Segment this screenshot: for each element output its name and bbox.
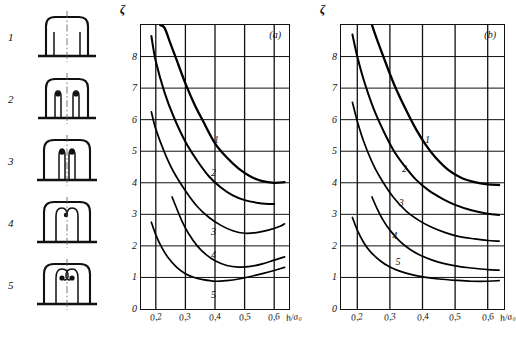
y-tick-label: 1: [332, 272, 337, 282]
y-tick-label: 0: [332, 304, 337, 314]
x-tick-label: 0,2: [149, 312, 162, 323]
curve-label-4: 4: [392, 231, 397, 241]
x-tick-label: 0,6: [268, 312, 281, 323]
sketch-row-1: 1: [0, 6, 118, 68]
x-tick-label: 0,5: [238, 312, 251, 323]
y-tick-label: 5: [332, 146, 337, 156]
sketch-index-2: 2: [8, 94, 14, 105]
y-tick-label: 3: [132, 209, 137, 219]
curve-4: [172, 197, 284, 267]
y-tick-label: 5: [132, 146, 137, 156]
chart-a-y-axis-label: ζ: [120, 2, 125, 17]
chart-b-x-axis-label: h/a₀: [499, 312, 516, 324]
curve-label-2: 2: [402, 164, 407, 174]
y-tick-label: 8: [332, 52, 337, 62]
y-tick-label: 7: [332, 83, 337, 93]
plain-straight-passage-icon: [32, 10, 102, 66]
chart-a-panel-tag: (a): [269, 29, 281, 40]
chart-b-plot-area: (b) 123450123456780,20,30,40,50,6h/a₀: [340, 24, 505, 310]
nozzle-sketch-column: 1 2: [0, 6, 118, 336]
x-tick-label: 0,2: [351, 312, 364, 323]
curve-1: [372, 25, 499, 185]
curve-label-1: 1: [214, 135, 219, 145]
curve-label-4: 4: [211, 250, 216, 260]
y-tick-label: 7: [132, 83, 137, 93]
y-tick-label: 8: [132, 52, 137, 62]
curve-label-3: 3: [211, 227, 216, 237]
sketch-index-5: 5: [8, 280, 14, 291]
y-tick-label: 6: [132, 115, 137, 125]
curve-label-5: 5: [396, 257, 401, 267]
x-tick-label: 0,4: [416, 312, 429, 323]
chart-a: ζ (a) 123450123456780,20,30,40,50,6h/a₀: [118, 0, 300, 344]
passage-with-hooked-slots-icon: [32, 196, 102, 252]
sketch-row-5: 5: [0, 254, 118, 316]
passage-with-deep-slots-icon: [32, 134, 102, 190]
passage-with-thin-slots-icon: [32, 72, 102, 128]
x-tick-label: 0,3: [383, 312, 396, 323]
curve-4: [372, 197, 499, 270]
sketch-row-2: 2: [0, 68, 118, 130]
curve-label-2: 2: [211, 168, 216, 178]
sketch-index-1: 1: [8, 32, 14, 43]
sketch-index-3: 3: [8, 156, 14, 167]
chart-b: ζ (b) 123450123456780,20,30,40,50,6h/a₀: [318, 0, 515, 344]
y-tick-label: 2: [132, 241, 137, 251]
y-tick-label: 3: [332, 209, 337, 219]
x-tick-label: 0,6: [481, 312, 494, 323]
y-tick-label: 4: [132, 178, 137, 188]
sketch-row-3: 3: [0, 130, 118, 192]
y-tick-label: 1: [132, 272, 137, 282]
passage-with-double-hooked-slots-icon: [32, 258, 102, 314]
chart-b-y-axis-label: ζ: [320, 2, 325, 17]
curve-5: [352, 217, 499, 281]
curve-label-3: 3: [399, 198, 404, 208]
curve-label-5: 5: [211, 290, 216, 300]
chart-a-plot-area: (a) 123450123456780,20,30,40,50,6h/a₀: [140, 24, 290, 310]
sketch-row-4: 4: [0, 192, 118, 254]
curve-2: [352, 34, 499, 214]
x-tick-label: 0,5: [448, 312, 461, 323]
sketch-index-4: 4: [8, 218, 14, 229]
y-tick-label: 6: [332, 115, 337, 125]
y-tick-label: 4: [332, 178, 337, 188]
curve-3: [352, 102, 499, 241]
x-tick-label: 0,4: [208, 312, 221, 323]
chart-a-x-axis-label: h/a₀: [286, 312, 303, 324]
curve-label-1: 1: [425, 135, 430, 145]
y-tick-label: 2: [332, 241, 337, 251]
curve-3: [151, 112, 284, 234]
x-tick-label: 0,3: [179, 312, 192, 323]
curve-1: [160, 25, 284, 183]
chart-b-panel-tag: (b): [484, 29, 496, 40]
y-tick-label: 0: [132, 304, 137, 314]
